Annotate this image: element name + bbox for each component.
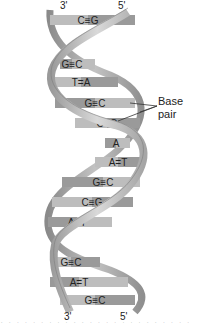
strand-end-top-left: 3' [60, 0, 67, 11]
strand-end-bottom-left: 3' [64, 311, 71, 322]
callout-line-1: Base [158, 95, 183, 108]
strand-end-top-right: 5' [118, 0, 125, 11]
base-pair-label: G≡C [93, 177, 114, 188]
base-pair-label: A=T [109, 157, 128, 168]
base-pair-label: G≡C [85, 295, 106, 306]
callout-line-2: pair [158, 108, 183, 121]
base-pair: A=T [95, 157, 140, 168]
base-pair: T=A [52, 77, 118, 88]
base-pair: A [105, 138, 130, 149]
base-pair: G≡C [55, 257, 100, 268]
base-pair-label: C≡G [78, 15, 99, 26]
strand-end-bottom-right: 5' [120, 311, 127, 322]
base-pair-label: T=A [72, 77, 91, 88]
double-helix-illustration: C≡GG≡CT=AG≡CC≡GAA=TG≡CC≡GA=TG≡CA=TG≡C [0, 0, 198, 329]
base-pair-label: A=T [70, 277, 89, 288]
base-pair: G≡C [60, 59, 95, 70]
base-pair-label: A [113, 138, 120, 149]
base-pair: G≡C [60, 295, 135, 306]
base-pair-label: G≡C [61, 257, 82, 268]
base-pair-callout: Base pair [158, 95, 183, 121]
base-pair-label: G≡C [62, 59, 83, 70]
dna-diagram: C≡GG≡CT=AG≡CC≡GAA=TG≡CC≡GA=TG≡CA=TG≡C 3'… [0, 0, 198, 329]
base-pair-label: G≡C [85, 98, 106, 109]
cropped-caption-text: · · · · · · · · · · · · · · · · · · · · … [0, 322, 198, 329]
